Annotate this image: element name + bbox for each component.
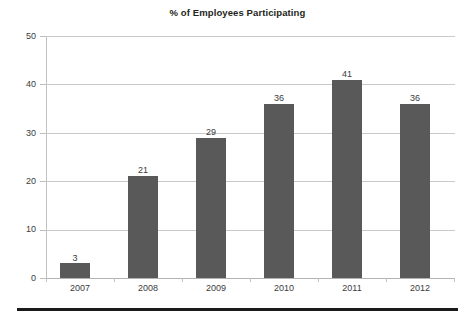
y-axis-label-50: 50 xyxy=(2,32,36,41)
gridline-20 xyxy=(46,181,455,182)
x-axis-label-2010: 2010 xyxy=(250,283,318,294)
gridline-30 xyxy=(46,133,455,134)
bar-rect-2008[interactable] xyxy=(128,176,158,278)
y-axis-labels: 50 40 30 20 10 0 xyxy=(0,0,36,321)
y-axis-label-10: 10 xyxy=(2,225,36,234)
x-axis-tick-3 xyxy=(250,278,251,282)
gridline-10 xyxy=(46,230,455,231)
bar-2009[interactable]: 29 xyxy=(196,36,226,278)
bar-value-2008: 21 xyxy=(114,165,172,175)
x-axis-label-2007: 2007 xyxy=(46,283,114,294)
x-axis-labels: 2007 2008 2009 2010 2011 2012 xyxy=(46,283,455,299)
x-axis-tick-2 xyxy=(182,278,183,282)
bar-value-2011: 41 xyxy=(318,69,376,79)
bar-2008[interactable]: 21 xyxy=(128,36,158,278)
bar-value-2007: 3 xyxy=(46,253,104,263)
chart-figure: % of Employees Participating 50 40 30 20… xyxy=(0,0,475,321)
bar-value-2009: 29 xyxy=(182,127,240,137)
x-axis-tick-1 xyxy=(114,278,115,282)
bar-rect-2011[interactable] xyxy=(332,80,362,278)
y-axis-label-30: 30 xyxy=(2,129,36,138)
x-axis-label-2012: 2012 xyxy=(386,283,454,294)
bar-2010[interactable]: 36 xyxy=(264,36,294,278)
bar-2012[interactable]: 36 xyxy=(400,36,430,278)
bar-value-2012: 36 xyxy=(386,93,444,103)
footer-rule xyxy=(17,308,458,311)
y-axis-label-40: 40 xyxy=(2,80,36,89)
y-axis-label-0: 0 xyxy=(2,274,36,283)
plot-area: 3 21 29 36 41 36 xyxy=(46,36,455,278)
bar-rect-2012[interactable] xyxy=(400,104,430,278)
chart-title: % of Employees Participating xyxy=(0,7,475,18)
bar-rect-2009[interactable] xyxy=(196,138,226,278)
gridline-40 xyxy=(46,84,455,85)
bar-rect-2010[interactable] xyxy=(264,104,294,278)
gridline-50 xyxy=(46,36,455,37)
x-axis-tick-5 xyxy=(386,278,387,282)
bar-rect-2007[interactable] xyxy=(60,263,90,278)
bar-2011[interactable]: 41 xyxy=(332,36,362,278)
x-axis-label-2008: 2008 xyxy=(114,283,182,294)
x-axis-tick-6 xyxy=(454,278,455,282)
x-axis-label-2011: 2011 xyxy=(318,283,386,294)
x-axis-tick-0 xyxy=(46,278,47,282)
bar-value-2010: 36 xyxy=(250,93,308,103)
y-axis-label-20: 20 xyxy=(2,177,36,186)
bar-2007[interactable]: 3 xyxy=(60,36,90,278)
x-axis-tick-4 xyxy=(318,278,319,282)
x-axis-label-2009: 2009 xyxy=(182,283,250,294)
